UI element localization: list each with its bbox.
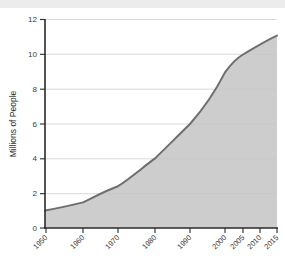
x-tick-label-1990: 1990 [175,233,193,251]
y-tick-label-0: 0 [33,224,38,233]
y-axis-title: Millions of People [8,90,18,157]
x-tick-labels: 1950 1960 1970 1980 1990 2000 2005 2010 … [31,233,280,251]
x-tick-label-2000: 2000 [210,233,228,251]
x-tick-label-2010: 2010 [245,233,263,251]
area-chart: 12 10 8 6 4 2 0 1950 1960 1970 1980 199 [0,0,285,267]
x-tick-label-1970: 1970 [103,233,121,251]
x-tick-label-1960: 1960 [68,233,86,251]
y-tick-label-2: 2 [33,189,38,198]
x-tick-label-2005: 2005 [228,233,246,251]
y-tick-label-4: 4 [33,154,38,163]
y-tick-labels: 12 10 8 6 4 2 0 [28,15,37,233]
y-tick-label-6: 6 [33,120,38,129]
x-tick-label-2015: 2015 [262,233,280,251]
y-tick-label-8: 8 [33,85,38,94]
y-tick-label-12: 12 [28,15,37,24]
y-tick-label-10: 10 [28,50,37,59]
series-area [45,36,277,228]
x-tick-label-1950: 1950 [31,233,49,251]
figure-container: 12 10 8 6 4 2 0 1950 1960 1970 1980 199 [0,0,285,267]
x-tick-label-1980: 1980 [140,233,158,251]
